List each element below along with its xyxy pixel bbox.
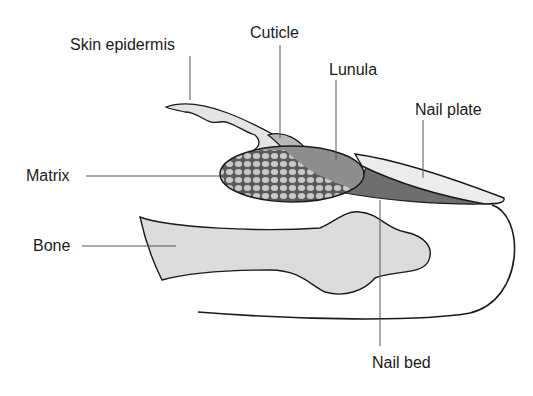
label-matrix: Matrix — [26, 168, 70, 184]
label-cuticle: Cuticle — [250, 25, 299, 41]
label-lunula: Lunula — [329, 62, 377, 78]
label-skin-epidermis: Skin epidermis — [70, 37, 175, 53]
bone-shape — [140, 212, 430, 294]
nail-anatomy-diagram — [0, 0, 533, 396]
label-nail-plate: Nail plate — [415, 102, 482, 118]
label-nail-bed: Nail bed — [372, 355, 431, 371]
label-bone: Bone — [33, 238, 70, 254]
